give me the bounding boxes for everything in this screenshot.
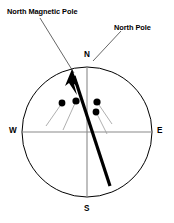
- diagram-canvas: [0, 0, 174, 223]
- leader-dot-left-inner-line: [63, 101, 76, 130]
- leader-dot-right-upper-line: [97, 102, 112, 124]
- label-cardinal-east: E: [157, 127, 162, 135]
- label-cardinal-north: N: [84, 51, 90, 59]
- leader-north-pole-line: [93, 31, 121, 61]
- label-cardinal-west: W: [9, 127, 17, 135]
- label-north-pole: North Pole: [114, 24, 151, 31]
- dot-right-lower: [93, 109, 100, 116]
- label-cardinal-south: S: [84, 205, 89, 213]
- compass-diagram: North Magnetic Pole North Pole N S W E: [0, 0, 174, 223]
- leader-dot-left-outer-line: [46, 103, 62, 126]
- label-north-magnetic-pole: North Magnetic Pole: [7, 8, 78, 15]
- leader-north-magnetic-pole-line: [40, 18, 74, 73]
- leader-dot-right-lower-line: [96, 112, 107, 134]
- dot-left-outer: [59, 100, 66, 107]
- compass-needle: [74, 76, 110, 186]
- dot-right-upper: [93, 98, 100, 105]
- dot-left-inner: [72, 97, 79, 104]
- needle-arrowhead: [65, 69, 79, 95]
